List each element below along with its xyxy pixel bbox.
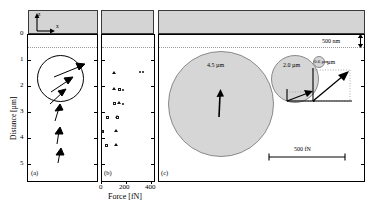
panel-b-right-edge <box>154 34 155 182</box>
scatter-marker-triangle <box>112 71 116 74</box>
panel-label-b: (b) <box>104 169 112 176</box>
scatter-marker-dot <box>142 71 144 73</box>
panel-label-c: (c) <box>161 169 168 176</box>
bead-large-vector <box>213 88 227 118</box>
x-axis-inset-label: x <box>56 23 59 29</box>
bead-large-label: 4.5 µm <box>207 62 224 68</box>
scatter-marker-square <box>106 116 109 119</box>
y-tick-label-0: 0 <box>20 30 24 37</box>
gap-label: 500 nm <box>322 38 340 44</box>
panel-c-rtick-4 <box>361 138 364 139</box>
panel-c-bottom-line <box>158 181 365 182</box>
figure-root: Distance [µm] 0 1 2 3 4 5 z x <box>0 0 375 203</box>
scatter-marker-square <box>116 116 119 119</box>
y-tick-label-1: 1 <box>20 56 24 63</box>
scatter-marker-triangle <box>117 101 121 104</box>
panel-c-rtick-1 <box>361 60 364 61</box>
force-vectors-a <box>28 34 98 182</box>
panel-label-a: (a) <box>31 169 38 176</box>
scatter-marker-square <box>113 102 116 105</box>
x-tick-label-400: 400 <box>145 184 156 191</box>
reference-line-c <box>159 47 364 48</box>
x-axis-title: Force [fN] <box>108 193 142 200</box>
scatter-marker-dot <box>101 131 103 133</box>
gap-arrow-icon <box>356 34 365 48</box>
panel-c-right-edge <box>364 34 365 182</box>
y-tick-label-2: 2 <box>20 82 24 89</box>
y-tick-label-4: 4 <box>20 134 24 141</box>
y-tick-label-5: 5 <box>20 160 24 167</box>
panel-c-rtick-5 <box>361 164 364 165</box>
scatter-plot-b <box>101 34 154 182</box>
scatter-marker-dot <box>122 103 124 105</box>
scatter-marker-square <box>118 88 121 91</box>
bead-vector-inset <box>282 64 360 112</box>
y-tick-label-3: 3 <box>20 108 24 115</box>
force-scalebar-label: 500 fN <box>292 146 313 152</box>
scatter-marker-square <box>105 144 108 147</box>
panel-c-left-edge <box>158 34 159 182</box>
coordinate-axis-inset <box>31 11 65 33</box>
scatter-marker-triangle <box>112 87 116 90</box>
x-tick-label-200: 200 <box>119 184 130 191</box>
scatter-marker-triangle <box>114 143 118 146</box>
x-tick-label-0: 0 <box>99 184 103 191</box>
substrate-band-c <box>158 10 365 34</box>
substrate-band-b <box>101 10 154 34</box>
panel-c-top-line <box>158 34 365 35</box>
z-axis-inset-label: z <box>38 11 40 17</box>
scatter-marker-dot <box>122 89 124 91</box>
panel-c-rtick-2 <box>361 86 364 87</box>
panel-c-rtick-3 <box>361 112 364 113</box>
y-axis-title: Distance [µm] <box>9 97 18 140</box>
force-scalebar <box>268 153 346 161</box>
scatter-marker-triangle <box>114 129 118 132</box>
scatter-marker-dot <box>139 71 141 73</box>
